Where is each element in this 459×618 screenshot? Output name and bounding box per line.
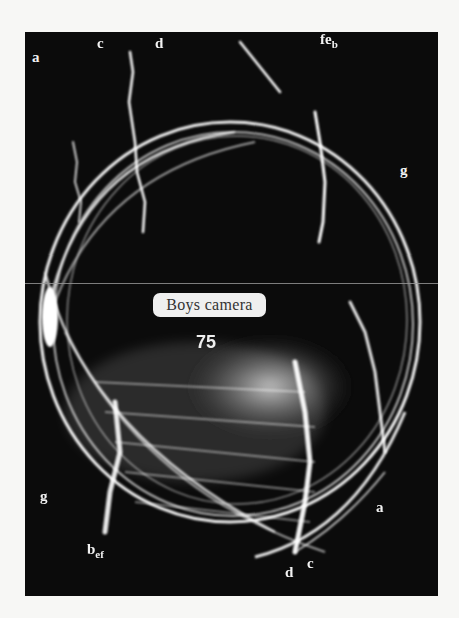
- label-left-g: g: [40, 489, 48, 504]
- label-top-a: a: [32, 50, 40, 65]
- label-top-right-feb: feb: [320, 32, 338, 47]
- frame-number: 75: [196, 332, 216, 353]
- label-e: e: [325, 32, 332, 47]
- label-f: f: [100, 548, 104, 560]
- camera-label-badge: Boys camera: [153, 293, 266, 317]
- label-bottom-c: c: [307, 556, 314, 571]
- label-bottom-bef: bef: [87, 542, 104, 557]
- label-bottom-right-a: a: [376, 500, 384, 515]
- lightning-photograph: a c d feb g g bef a c d Boys camera 75: [25, 32, 438, 596]
- label-top-d: d: [155, 36, 163, 51]
- label-b: b: [332, 38, 338, 50]
- label-bottom-d: d: [285, 565, 293, 580]
- label-top-c: c: [97, 36, 104, 51]
- label-right-g: g: [400, 163, 408, 178]
- horizontal-divider-line: [25, 283, 438, 284]
